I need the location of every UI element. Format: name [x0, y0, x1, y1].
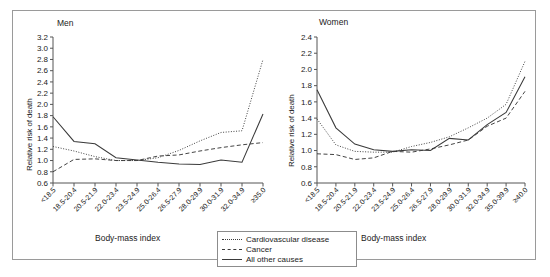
- legend-line-dashed-icon: [222, 246, 242, 254]
- y-tick-label: 1.2: [301, 130, 313, 139]
- y-tick-label: 1.2: [37, 145, 49, 154]
- y-tick-label: 2.2: [37, 89, 49, 98]
- panel-women: Women Relative risk of death 0.60.81.01.…: [275, 11, 537, 261]
- series-line-dotted: [53, 59, 263, 160]
- legend: Cardiovascular diseaseCancerAll other ca…: [217, 231, 357, 267]
- x-axis-label-men: Body-mass index: [95, 233, 160, 243]
- panel-men: Men Relative risk of death 0.60.81.01.21…: [13, 11, 275, 261]
- y-tick-label: 1.4: [37, 134, 49, 143]
- plot-area-men: 0.60.81.01.21.41.61.82.02.22.42.62.83.03…: [13, 11, 275, 261]
- y-tick-label: 1.8: [301, 81, 313, 90]
- y-tick-label: 0.8: [301, 163, 313, 172]
- y-tick-label: 3.2: [37, 33, 49, 42]
- legend-item-label: Cardiovascular disease: [246, 235, 329, 245]
- series-line-solid: [317, 77, 525, 152]
- y-tick-label: 0.8: [37, 168, 49, 177]
- y-tick-label: 2.0: [301, 65, 313, 74]
- series-line-solid: [53, 114, 263, 165]
- legend-item: Cancer: [222, 245, 352, 255]
- y-tick-label: 2.0: [37, 100, 49, 109]
- legend-item: Cardiovascular disease: [222, 235, 352, 245]
- legend-line-solid-icon: [222, 256, 242, 264]
- plot-area-women: 0.60.81.01.21.41.61.82.02.22.4<18.518.5-…: [275, 11, 537, 261]
- y-tick-label: 2.2: [301, 49, 313, 58]
- y-tick-label: 1.6: [37, 123, 49, 132]
- legend-item-label: All other causes: [246, 255, 303, 265]
- legend-item-label: Cancer: [246, 245, 272, 255]
- x-tick-label: ≥40.0: [511, 186, 530, 205]
- series-line-dashed: [53, 143, 263, 172]
- y-tick-label: 1.0: [301, 146, 313, 155]
- y-tick-label: 3.0: [37, 44, 49, 53]
- legend-item: All other causes: [222, 255, 352, 265]
- y-tick-label: 1.0: [37, 156, 49, 165]
- y-tick-label: 1.8: [37, 111, 49, 120]
- y-tick-label: 0.6: [37, 179, 49, 188]
- y-tick-label: 1.6: [301, 98, 313, 107]
- y-tick-label: 0.6: [301, 179, 313, 188]
- y-tick-label: 2.6: [37, 66, 49, 75]
- figure-frame: Men Relative risk of death 0.60.81.01.21…: [12, 10, 536, 260]
- x-tick-label: ≥35.0: [249, 186, 268, 205]
- y-tick-label: 2.4: [37, 78, 49, 87]
- x-axis-label-women: Body-mass index: [361, 233, 426, 243]
- legend-line-dotted-icon: [222, 236, 242, 244]
- y-tick-label: 2.8: [37, 55, 49, 64]
- y-tick-label: 1.4: [301, 114, 313, 123]
- figure-root: Men Relative risk of death 0.60.81.01.21…: [0, 0, 550, 277]
- y-tick-label: 2.4: [301, 33, 313, 42]
